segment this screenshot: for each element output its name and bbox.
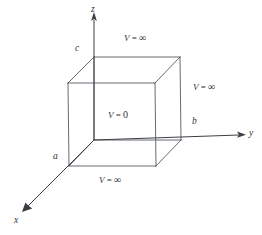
dimension-label-b: b	[192, 117, 197, 127]
cube-edge-back-right-vertical	[180, 57, 181, 140]
axis-label-z: z	[91, 5, 95, 15]
axis-x	[22, 140, 94, 212]
dimension-label-a: a	[53, 152, 58, 162]
potential-value: ∞	[114, 174, 121, 185]
axis-y-line	[94, 135, 239, 140]
cube-edge-depth-top-left	[68, 57, 94, 83]
potential-equals: =	[199, 82, 209, 92]
potential-label-top-wall: V = ∞	[124, 33, 146, 43]
axis-label-x: x	[14, 216, 18, 226]
cube-edge-front-left-vertical	[68, 83, 69, 166]
potential-equals: =	[130, 33, 140, 43]
axis-y	[94, 132, 246, 140]
potential-label-right-wall: V = ∞	[193, 82, 215, 92]
potential-equals: =	[105, 175, 115, 185]
dimension-label-c: c	[75, 44, 79, 54]
cube-edge-depth-top-right	[155, 57, 180, 83]
potential-equals: =	[114, 110, 124, 120]
axis-label-y: y	[249, 129, 253, 139]
potential-value: ∞	[208, 81, 215, 92]
potential-well-figure: z y x a b c V = ∞ V = ∞ V = 0 V = ∞	[0, 0, 262, 235]
potential-label-interior: V = 0	[108, 110, 128, 120]
potential-label-bottom-wall: V = ∞	[99, 175, 121, 185]
potential-value: 0	[123, 109, 128, 120]
cube-edge-front-right-vertical	[155, 83, 156, 166]
potential-value: ∞	[139, 32, 146, 43]
cube-edge-depth-bottom-right	[156, 140, 181, 166]
axis-x-line	[28, 140, 94, 206]
axis-z	[91, 12, 97, 140]
